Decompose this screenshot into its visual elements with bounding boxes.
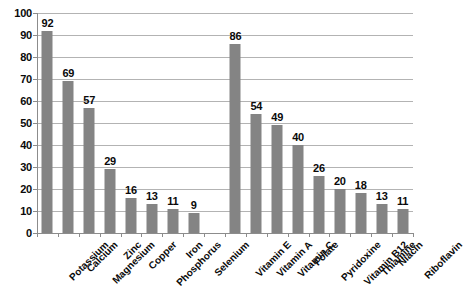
bar-slot: 11 — [392, 13, 413, 233]
bar-slot: 16 — [121, 13, 142, 233]
x-axis-tick-mark — [392, 233, 393, 237]
bar-slot: 57 — [79, 13, 100, 233]
x-axis-tick-mark — [183, 233, 184, 237]
bar[interactable] — [188, 213, 199, 233]
y-axis-tick-label: 0 — [26, 227, 32, 239]
bar[interactable] — [125, 198, 136, 233]
x-axis-tick-mark — [121, 233, 122, 237]
bar-value-label: 13 — [146, 190, 158, 202]
y-axis-tick-label: 90 — [20, 29, 32, 41]
y-axis-tick-label: 50 — [20, 117, 32, 129]
bar-value-label: 18 — [355, 179, 367, 191]
plot-area: 926957291613119865449402620181311 — [37, 13, 413, 233]
bar-slot: 26 — [309, 13, 330, 233]
x-axis-tick-mark — [162, 233, 163, 237]
bar[interactable] — [355, 193, 366, 233]
x-axis-tick-mark — [79, 233, 80, 237]
bar-slot: 49 — [267, 13, 288, 233]
bar[interactable] — [334, 189, 345, 233]
bar[interactable] — [313, 176, 324, 233]
bar[interactable] — [146, 204, 157, 233]
y-axis-tick-label: 100 — [14, 7, 32, 19]
bar[interactable] — [63, 81, 74, 233]
x-axis-tick-mark — [58, 233, 59, 237]
bar-slot: 86 — [225, 13, 246, 233]
bar-slot: 92 — [37, 13, 58, 233]
y-axis-tick-label: 20 — [20, 183, 32, 195]
bar-value-label: 11 — [167, 195, 178, 207]
bar-value-label: 9 — [191, 199, 197, 211]
bar[interactable] — [251, 114, 262, 233]
bar-slot: 29 — [100, 13, 121, 233]
x-axis-tick-mark — [141, 233, 142, 237]
bar-value-label: 40 — [292, 131, 304, 143]
bar[interactable] — [42, 31, 53, 233]
y-axis-tick-label: 80 — [20, 51, 32, 63]
x-axis-tick-mark — [288, 233, 289, 237]
y-axis-tick-label: 60 — [20, 95, 32, 107]
bar-slot: 40 — [288, 13, 309, 233]
bar-value-label: 69 — [62, 67, 74, 79]
y-axis-tick-label: 30 — [20, 161, 32, 173]
y-axis-tick-label: 10 — [20, 205, 32, 217]
bar-value-label: 16 — [125, 184, 137, 196]
bar[interactable] — [230, 44, 241, 233]
x-axis-tick-mark — [309, 233, 310, 237]
bar-slot: 20 — [329, 13, 350, 233]
bar-slot: 69 — [58, 13, 79, 233]
bar[interactable] — [376, 204, 387, 233]
bar-value-label: 86 — [230, 30, 242, 42]
bar-value-label: 92 — [42, 17, 54, 29]
x-axis-tick-mark — [225, 233, 226, 237]
bar[interactable] — [84, 108, 95, 233]
x-axis-tick-mark — [204, 233, 205, 237]
bar[interactable] — [397, 209, 408, 233]
bar[interactable] — [167, 209, 178, 233]
y-axis-tick-label: 70 — [20, 73, 32, 85]
bar-value-label: 57 — [83, 94, 95, 106]
bar[interactable] — [272, 125, 283, 233]
bar-value-label: 26 — [313, 162, 325, 174]
x-axis-tick-mark — [371, 233, 372, 237]
bar[interactable] — [105, 169, 116, 233]
bar-slot: 18 — [350, 13, 371, 233]
figure-caption — [0, 292, 429, 301]
bar-value-label: 20 — [334, 175, 346, 187]
x-axis-tick-mark — [329, 233, 330, 237]
x-axis-tick-mark — [37, 233, 38, 237]
y-axis-tick-label: 40 — [20, 139, 32, 151]
bar-slot: 13 — [371, 13, 392, 233]
bar-value-label: 54 — [250, 100, 262, 112]
bar-value-label: 29 — [104, 155, 116, 167]
x-axis-tick-mark — [267, 233, 268, 237]
bar-value-label: 13 — [376, 190, 388, 202]
x-axis-tick-mark — [413, 233, 414, 237]
x-axis-tick-mark — [350, 233, 351, 237]
bar-slot: 13 — [141, 13, 162, 233]
y-axis-line — [37, 13, 38, 234]
x-axis-tick-mark — [100, 233, 101, 237]
bar[interactable] — [293, 145, 304, 233]
bar-slot: 9 — [183, 13, 204, 233]
bar-slot: 11 — [162, 13, 183, 233]
x-axis-category-label: Riboflavin — [422, 239, 464, 281]
bar-slot: 54 — [246, 13, 267, 233]
bar-value-label: 49 — [271, 111, 283, 123]
bar-value-label: 11 — [397, 195, 408, 207]
x-axis-tick-mark — [246, 233, 247, 237]
